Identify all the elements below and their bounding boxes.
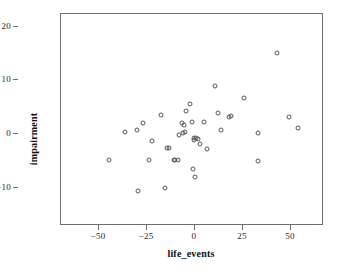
data-point [106,157,111,162]
scatter-plot-figure: impairment life_events −1001020−50−25025… [0,0,341,277]
data-point [218,128,223,133]
x-axis-tick-mark [290,225,291,230]
y-axis-tick-label: 10 [1,74,11,84]
data-point [197,142,202,147]
data-point [196,136,201,141]
y-axis-tick-mark [13,133,18,134]
data-point [135,128,140,133]
x-axis-tick-label: −50 [91,231,106,241]
data-point [167,145,172,150]
data-point [159,113,164,118]
data-point [204,147,209,152]
data-point [149,138,154,143]
data-point [295,125,300,130]
data-point [163,186,168,191]
data-point [255,130,260,135]
y-axis-tick-mark [13,187,18,188]
data-point [175,157,180,162]
data-point [122,129,127,134]
y-axis-tick-mark [13,79,18,80]
data-point [183,129,188,134]
data-point [241,96,246,101]
x-axis-tick-mark [98,225,99,230]
data-point [135,189,140,194]
data-point [191,166,196,171]
plot-area [61,14,322,224]
data-point [182,122,187,127]
x-axis-tick-mark [146,225,147,230]
data-point [183,109,188,114]
plot-frame [60,13,323,225]
y-axis-tick-mark [13,26,18,27]
y-axis-tick-label: 20 [1,21,11,31]
y-axis-tick-label: −10 [0,182,11,192]
y-axis-tick-label: 0 [6,128,11,138]
data-point [287,114,292,119]
data-point [274,50,279,55]
x-axis-tick-label: 0 [192,231,197,241]
x-axis-tick-label: −25 [139,231,154,241]
data-point [189,120,194,125]
x-axis-tick-mark [194,225,195,230]
x-axis-title: life_events [167,248,214,259]
data-point [146,157,151,162]
data-point [216,111,221,116]
x-axis-tick-label: 25 [237,231,247,241]
data-point [202,120,207,125]
data-point [229,114,234,119]
data-point [188,102,193,107]
data-point [255,159,260,164]
x-axis-tick-mark [242,225,243,230]
data-point [212,83,217,88]
y-axis-title: impairment [28,112,39,165]
data-point [193,174,198,179]
data-point [140,121,145,126]
x-axis-tick-label: 50 [285,231,295,241]
